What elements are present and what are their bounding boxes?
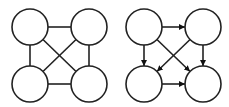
node-top-right <box>71 9 107 45</box>
node-bottom-right <box>71 66 107 102</box>
node-bottom-right <box>185 66 221 102</box>
undirected-graph <box>12 9 107 102</box>
graph-diagram-canvas <box>0 0 229 107</box>
node-top-left <box>126 9 162 45</box>
node-top-left <box>12 9 48 45</box>
node-bottom-left <box>126 66 162 102</box>
node-bottom-left <box>12 66 48 102</box>
directed-graph <box>126 9 221 102</box>
node-top-right <box>185 9 221 45</box>
